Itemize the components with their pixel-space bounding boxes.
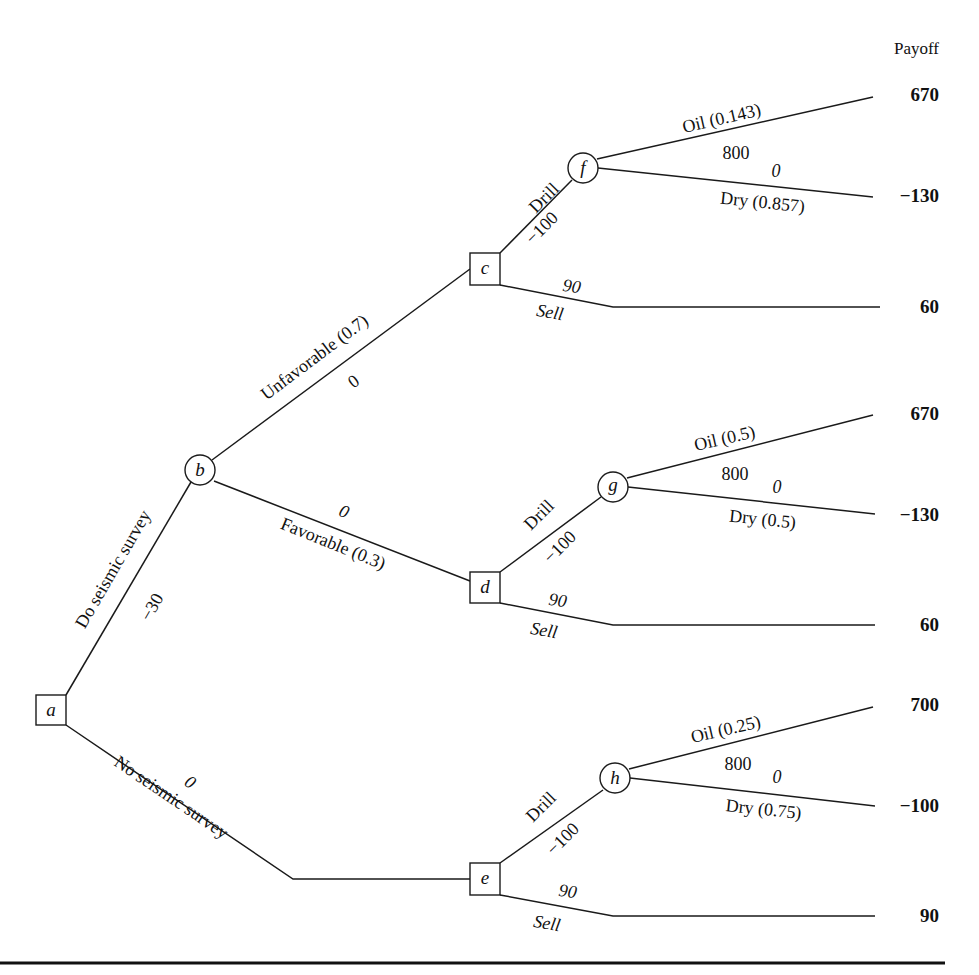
edge-b-c xyxy=(212,269,470,460)
branch-f-dry-value: 0 xyxy=(772,161,781,181)
payoff-g-dry: −130 xyxy=(900,504,939,525)
node-h: h xyxy=(600,763,630,793)
node-d: d xyxy=(470,572,500,603)
branch-h-dry-label: Dry (0.75) xyxy=(725,795,803,824)
branch-b-d-label: Favorable (0.3) xyxy=(278,513,389,574)
branch-g-oil-label: Oil (0.5) xyxy=(692,421,757,455)
node-c-label: c xyxy=(481,257,490,278)
branch-f-oil-label: Oil (0.143) xyxy=(680,99,763,137)
branch-a-e-value: 0 xyxy=(181,771,200,793)
node-e-label: e xyxy=(481,867,489,888)
branch-c-sell-value: 90 xyxy=(562,275,583,297)
branch-b-c-value: 0 xyxy=(344,371,363,392)
node-h-label: h xyxy=(610,767,620,788)
node-g-label: g xyxy=(608,474,618,495)
payoff-h-oil: 700 xyxy=(911,694,940,715)
branch-e-sell-label: Sell xyxy=(532,911,562,935)
branch-e-sell-value: 90 xyxy=(558,880,579,902)
node-b-label: b xyxy=(195,459,205,480)
payoff-f-dry: −130 xyxy=(900,185,939,206)
branch-c-f-value: −100 xyxy=(522,208,562,248)
node-g: g xyxy=(598,472,628,502)
node-a-label: a xyxy=(46,699,56,720)
branch-h-dry-value: 0 xyxy=(773,767,782,787)
branch-d-g-label: Drill xyxy=(520,496,558,534)
payoff-header: Payoff xyxy=(894,39,939,58)
branch-d-g-value: −100 xyxy=(540,527,580,567)
branch-d-sell-label: Sell xyxy=(529,618,559,642)
branch-h-oil-label: Oil (0.25) xyxy=(689,711,763,747)
branch-g-dry-label: Dry (0.5) xyxy=(728,506,797,534)
payoff-d-sell: 60 xyxy=(920,614,939,635)
node-b: b xyxy=(185,455,215,485)
payoff-h-dry: −100 xyxy=(900,795,939,816)
branch-e-h-label: Drill xyxy=(522,788,560,826)
edge-a-b xyxy=(66,482,191,695)
branch-c-sell-label: Sell xyxy=(535,300,565,324)
node-f: f xyxy=(568,153,598,183)
edge-e-sell xyxy=(500,895,875,916)
branch-b-d-value: 0 xyxy=(336,500,352,522)
node-d-label: d xyxy=(480,576,490,597)
branch-g-oil-value: 800 xyxy=(722,464,749,484)
branch-d-sell-value: 90 xyxy=(548,589,569,611)
node-e: e xyxy=(470,863,500,895)
payoff-f-oil: 670 xyxy=(911,84,940,105)
payoff-e-sell: 90 xyxy=(920,905,939,926)
payoff-g-oil: 670 xyxy=(911,403,940,424)
node-c: c xyxy=(470,253,500,285)
decision-tree: a b c d e f g h Do seismic survey −30 No… xyxy=(0,0,979,975)
branch-g-dry-value: 0 xyxy=(773,477,782,497)
branch-f-dry-label: Dry (0.857) xyxy=(719,188,806,218)
branch-f-oil-value: 800 xyxy=(723,143,750,163)
branch-a-b-value: −30 xyxy=(136,590,167,624)
payoff-c-sell: 60 xyxy=(920,296,939,317)
edge-b-d xyxy=(214,481,470,581)
node-a: a xyxy=(36,695,66,725)
branch-e-h-value: −100 xyxy=(543,819,583,859)
edge-a-e xyxy=(66,725,470,879)
branch-a-e-label: No seismic survey xyxy=(111,752,232,843)
branch-h-oil-value: 800 xyxy=(725,754,752,774)
